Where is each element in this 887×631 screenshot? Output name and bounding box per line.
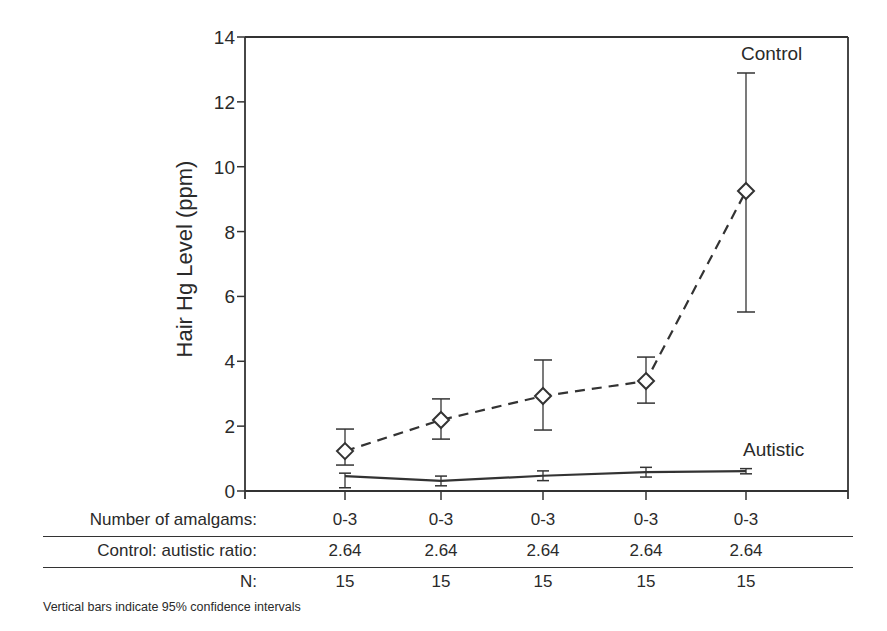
row-label-n: N: [0, 572, 257, 592]
table-divider [43, 567, 853, 568]
amalgams-cell: 0-3 [503, 510, 583, 530]
n-cell: 15 [305, 572, 385, 592]
ratio-cell: 2.64 [503, 541, 583, 561]
ratio-cell: 2.64 [606, 541, 686, 561]
y-tick-label: 10 [214, 157, 235, 178]
control-series-line [345, 191, 746, 451]
y-tick-label: 4 [224, 351, 235, 372]
control-series-label: Control [741, 43, 802, 64]
autistic-series-label: Autistic [743, 439, 804, 460]
table-divider [43, 536, 853, 537]
diamond-marker-icon [738, 183, 754, 199]
n-cell: 15 [401, 572, 481, 592]
diamond-marker-icon [337, 443, 353, 459]
ratio-cell: 2.64 [305, 541, 385, 561]
y-tick-label: 6 [224, 286, 235, 307]
y-axis-label: Hair Hg Level (ppm) [172, 161, 197, 358]
row-label-ratio: Control: autistic ratio: [0, 541, 257, 561]
amalgams-cell: 0-3 [606, 510, 686, 530]
amalgams-cell: 0-3 [706, 510, 786, 530]
y-tick-label: 14 [214, 27, 236, 48]
amalgams-cell: 0-3 [401, 510, 481, 530]
y-tick-label: 2 [224, 416, 235, 437]
ratio-cell: 2.64 [706, 541, 786, 561]
n-cell: 15 [503, 572, 583, 592]
ratio-cell: 2.64 [401, 541, 481, 561]
amalgams-cell: 0-3 [305, 510, 385, 530]
diamond-marker-icon [638, 373, 654, 389]
n-cell: 15 [706, 572, 786, 592]
diamond-marker-icon [433, 412, 449, 428]
row-label-amalgams: Number of amalgams: [0, 510, 257, 530]
footnote: Vertical bars indicate 95% confidence in… [43, 600, 301, 614]
y-tick-label: 12 [214, 92, 235, 113]
autistic-series-line [345, 471, 746, 481]
diamond-marker-icon [535, 388, 551, 404]
n-cell: 15 [606, 572, 686, 592]
y-tick-label: 0 [224, 481, 235, 502]
y-tick-label: 8 [224, 222, 235, 243]
